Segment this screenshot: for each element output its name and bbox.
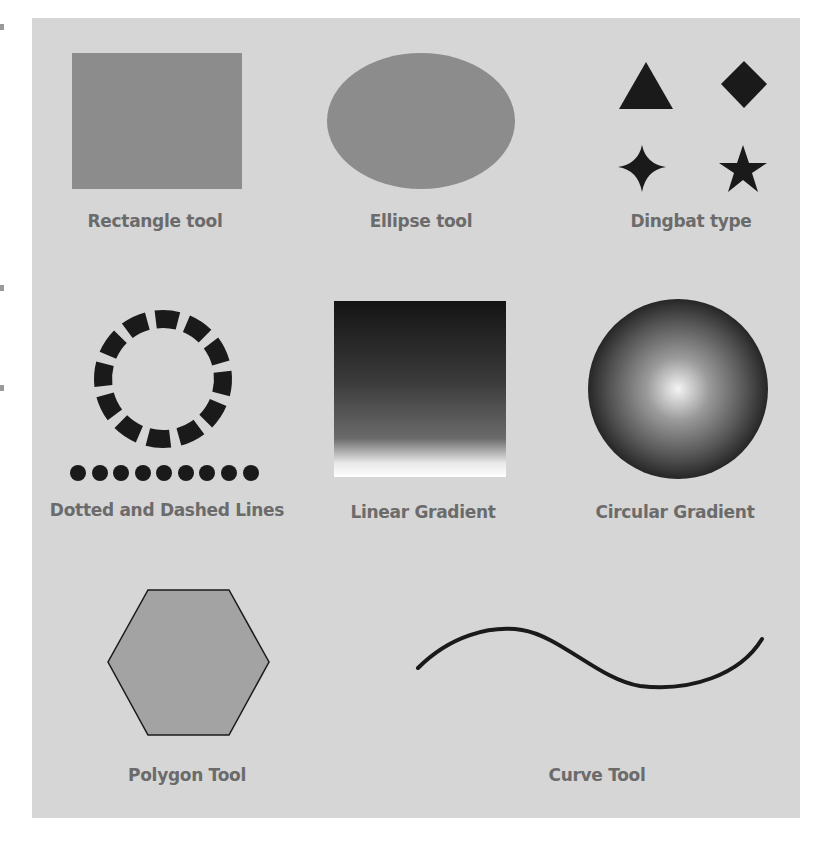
four-point-star-icon — [618, 145, 666, 192]
curve-label: Curve Tool — [548, 765, 645, 785]
tool-illustrations — [0, 0, 819, 844]
hexagon-shape — [108, 590, 269, 735]
dotted-line — [70, 465, 259, 481]
linear-gradient-label: Linear Gradient — [350, 502, 495, 522]
circular-gradient-sphere — [588, 299, 768, 479]
linear-gradient-swatch — [334, 301, 506, 477]
ellipse-label: Ellipse tool — [370, 211, 473, 231]
dashed-circle — [96, 312, 230, 446]
rectangle-shape — [72, 53, 242, 189]
diamond-icon — [721, 61, 767, 108]
dingbat-label: Dingbat type — [630, 211, 751, 231]
dingbat-group — [618, 61, 767, 192]
ellipse-shape — [327, 53, 515, 189]
polygon-label: Polygon Tool — [128, 765, 246, 785]
circular-gradient-label: Circular Gradient — [596, 502, 755, 522]
dotted-dashed-label: Dotted and Dashed Lines — [50, 500, 284, 520]
triangle-icon — [619, 62, 673, 109]
five-point-star-icon — [719, 145, 767, 192]
curve-path — [418, 629, 762, 687]
rectangle-label: Rectangle tool — [88, 211, 223, 231]
